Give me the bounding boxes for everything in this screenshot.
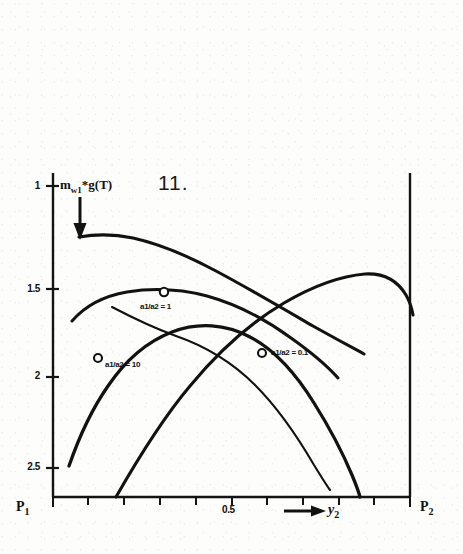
figure-number: 11. [158, 172, 189, 193]
annotation-label-a1a2-1: a1/a2 = 1 [140, 303, 171, 311]
marker-a1a2-10[interactable] [94, 354, 102, 362]
y-axis-caption: mw1*g(T) [60, 178, 112, 195]
flow-direction-label: y2 [328, 503, 339, 520]
x-axis-start-letter: P [16, 499, 25, 514]
annotation-down-arrow [74, 197, 87, 240]
x-axis-end-label: P2 [420, 500, 434, 517]
x-tick-label-0-5: 0.5 [222, 505, 235, 515]
x-axis-start-sub: 1 [25, 506, 30, 517]
annotation-label-a1a2-10: a1/a2 = 10 [105, 361, 140, 369]
x-axis-end-sub: 2 [429, 506, 434, 517]
annotation-label-a1a2-0-1: a1/a2 = 0.1 [271, 349, 308, 357]
curve-steep-descending [69, 326, 360, 497]
y-tick-label-1: 1 [8, 181, 40, 191]
x-axis-end-letter: P [420, 499, 429, 514]
flow-direction-arrow [284, 506, 326, 517]
marker-a1a2-1[interactable] [160, 288, 168, 296]
axis-lines [53, 173, 410, 497]
x-axis-start-label: P1 [16, 500, 30, 517]
plot-canvas [0, 0, 463, 554]
curve-steep-descending-inner [112, 307, 330, 490]
y-axis-caption-rest: *g(T) [82, 177, 112, 192]
y-tick-label-1-5: 1.5 [8, 284, 40, 294]
y-axis-caption-main: m [60, 177, 71, 192]
flow-symbol-sub: 2 [334, 509, 339, 520]
y-tick-label-2: 2 [8, 371, 40, 381]
y-tick-label-2-5: 2.5 [8, 462, 40, 472]
data-point-markers [94, 288, 266, 362]
scientific-figure: 1 1.5 2 2.5 0.5 mw1*g(T) 11. P1 P2 y2 a1… [0, 0, 463, 554]
y-axis-caption-sub: w1 [71, 185, 82, 195]
marker-a1a2-0-1[interactable] [258, 349, 266, 357]
